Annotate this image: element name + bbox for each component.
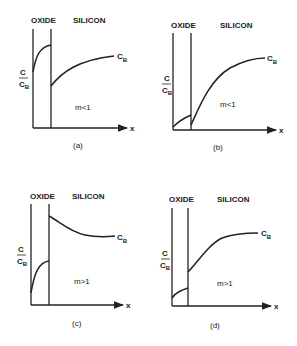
panel-caption: (d) xyxy=(210,321,220,330)
panel-a: OXIDE SILICON x CB C CB m<1 (a) xyxy=(19,16,135,150)
condition-label: m<1 xyxy=(75,103,91,112)
y-label-num: C xyxy=(20,68,26,77)
x-label: x xyxy=(126,301,131,310)
y-label-den: CB xyxy=(160,261,171,271)
condition-label: m<1 xyxy=(220,100,236,109)
cb-label: CB xyxy=(261,229,272,240)
cb-label: CB xyxy=(117,52,128,63)
x-label: x xyxy=(274,302,279,311)
oxide-label: OXIDE xyxy=(169,195,195,204)
x-label: x xyxy=(279,126,284,135)
panel-c: OXIDE SILICON x CB C CB m>1 (c) xyxy=(17,192,131,328)
silicon-curve xyxy=(191,58,265,125)
oxide-label: OXIDE xyxy=(30,192,56,201)
oxide-curve xyxy=(31,261,49,293)
y-label-num: C xyxy=(162,249,168,258)
silicon-label: SILICON xyxy=(217,195,250,204)
condition-label: m>1 xyxy=(74,277,90,286)
condition-label: m>1 xyxy=(217,279,233,288)
panel-d: OXIDE SILICON x CB C CB m>1 (d) xyxy=(160,195,279,330)
silicon-label: SILICON xyxy=(220,21,253,30)
silicon-curve xyxy=(49,216,115,237)
y-label-den: CB xyxy=(17,257,28,267)
segregation-diagram: OXIDE SILICON x CB C CB m<1 (a) OXIDE SI… xyxy=(0,0,297,346)
y-label-num: C xyxy=(164,74,170,83)
silicon-label: SILICON xyxy=(72,192,105,201)
y-label-den: CB xyxy=(19,80,30,90)
cb-label: CB xyxy=(267,54,278,65)
silicon-label: SILICON xyxy=(73,16,106,25)
oxide-label: OXIDE xyxy=(31,16,57,25)
y-label-num: C xyxy=(18,245,24,254)
silicon-curve xyxy=(188,233,258,272)
panel-caption: (c) xyxy=(72,319,82,328)
oxide-curve xyxy=(172,288,188,298)
x-label: x xyxy=(130,124,135,133)
oxide-curve xyxy=(33,45,51,72)
y-label-den: CB xyxy=(162,86,173,96)
panel-caption: (a) xyxy=(73,141,83,150)
silicon-curve xyxy=(51,56,114,86)
cb-label: CB xyxy=(117,233,128,244)
oxide-label: OXIDE xyxy=(171,21,197,30)
panel-b: OXIDE SILICON x CB C CB m<1 (b) xyxy=(162,21,284,152)
panel-caption: (b) xyxy=(213,143,223,152)
oxide-curve xyxy=(173,115,191,127)
